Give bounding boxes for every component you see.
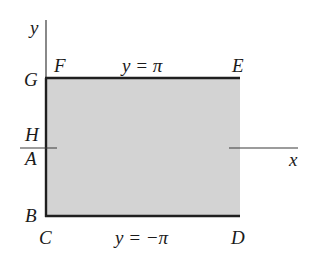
bottom-boundary-label: y = −π [113, 227, 169, 248]
y-axis-label: y [28, 17, 39, 38]
diagram-canvas: y x G F E H A B C D y = π y = −π [0, 0, 326, 264]
vertex-label-H: H [24, 124, 40, 145]
shaded-region [46, 78, 240, 216]
vertex-label-G: G [24, 69, 38, 90]
vertex-label-C: C [39, 227, 52, 248]
diagram-svg: y x G F E H A B C D y = π y = −π [0, 0, 326, 264]
vertex-label-E: E [231, 55, 244, 76]
top-boundary-label: y = π [120, 55, 163, 76]
vertex-label-B: B [25, 205, 37, 226]
vertex-label-A: A [23, 148, 37, 169]
vertex-label-D: D [230, 227, 245, 248]
x-axis-label: x [288, 149, 298, 170]
vertex-label-F: F [53, 55, 66, 76]
